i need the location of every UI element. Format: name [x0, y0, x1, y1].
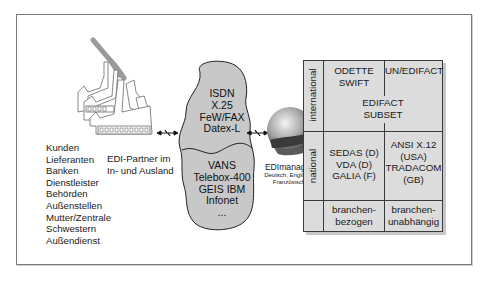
network-item: X.25: [192, 100, 252, 112]
network-list-bottom: VANS Telebox-400 GEIS IBM Infonet ...: [184, 160, 260, 219]
factory-icon: [78, 40, 152, 134]
standard-name: (GB): [385, 174, 442, 186]
partner-item: Kunden: [46, 142, 111, 154]
standard-name: ODETTE: [324, 65, 384, 77]
standard-name: VDA (D): [324, 159, 384, 171]
standard-name: TRADACOM: [385, 162, 442, 174]
matrix-divider: [304, 131, 442, 132]
standard-name: ANSI X.12: [385, 139, 442, 151]
partner-item: Dienstleister: [46, 177, 111, 189]
network-item: ...: [184, 207, 260, 219]
footer-text: unabhängig: [385, 216, 442, 228]
partner-item: Lieferanten: [46, 154, 111, 166]
standard-name: SEDAS (D): [324, 147, 384, 159]
standard-name: UN/EDIFACT: [385, 65, 442, 77]
cell-footer-left: branchen- bezogen: [324, 204, 384, 227]
partner-item: Banken: [46, 165, 111, 177]
row-label-international: international: [307, 60, 321, 130]
cell-footer-right: branchen- unabhängig: [385, 204, 442, 227]
partner-item: Mutter/Zentrale: [46, 212, 111, 224]
partner-caption-line: EDI-Partner im: [107, 153, 174, 165]
partner-list: Kunden Lieferanten Banken Dienstleister …: [46, 142, 111, 246]
row-label-national: national: [307, 131, 321, 201]
cell-national-left: SEDAS (D) VDA (D) GALIA (F): [324, 147, 384, 182]
standards-matrix: international national ODETTE SWIFT UN/E…: [303, 60, 443, 232]
cell-international-span: EDIFACT SUBSET: [324, 97, 442, 120]
standard-name: EDIFACT: [324, 97, 442, 109]
partner-item: Schwestern: [46, 223, 111, 235]
cell-national-right: ANSI X.12 (USA) TRADACOM (GB): [385, 139, 442, 185]
network-item: Telebox-400: [184, 172, 260, 184]
standard-name: (USA): [385, 151, 442, 163]
standard-name: GALIA (F): [324, 170, 384, 182]
partner-item: Behörden: [46, 188, 111, 200]
partner-item: Außendienst: [46, 235, 111, 247]
footer-text: branchen-: [324, 204, 384, 216]
partner-item: Außenstellen: [46, 200, 111, 212]
standard-name: SWIFT: [324, 77, 384, 89]
footer-text: bezogen: [324, 216, 384, 228]
network-item: Datex-L: [192, 123, 252, 135]
partner-caption-line: In- und Ausland: [107, 165, 174, 177]
footer-text: branchen-: [385, 204, 442, 216]
standard-name: SUBSET: [324, 109, 442, 121]
partner-caption: EDI-Partner im In- und Ausland: [107, 153, 174, 177]
matrix-divider: [304, 200, 442, 201]
cell-international-left: ODETTE SWIFT: [324, 65, 384, 88]
network-list-top: ISDN X.25 FeW/FAX Datex-L: [192, 88, 252, 135]
connection-arrow-left: [157, 130, 178, 136]
cell-international-right: UN/EDIFACT: [385, 65, 442, 77]
